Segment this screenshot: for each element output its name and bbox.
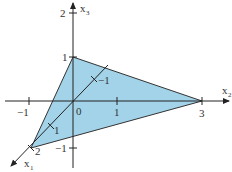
label-x1-1: 1 (54, 124, 60, 136)
axis-label-x3-sub: 3 (86, 9, 90, 17)
label-x3-1: 1 (62, 51, 68, 63)
label-x3-neg1: −1 (55, 142, 67, 154)
label-x2-3: 3 (199, 107, 205, 119)
label-x1-neg1: −1 (98, 74, 110, 86)
label-x3-2: 2 (60, 7, 66, 19)
axis-label-x2-sub: 2 (228, 91, 232, 99)
label-x2-1: 1 (114, 106, 120, 118)
label-x2-neg1: −1 (17, 106, 29, 118)
coordinate-diagram: −1 0 1 3 2 1 −1 1 2 −1 x 3 x 2 x 1 (0, 0, 232, 172)
label-origin: 0 (76, 105, 82, 117)
label-x1-2: 2 (35, 145, 41, 157)
axis-label-x1-sub: 1 (30, 164, 34, 172)
